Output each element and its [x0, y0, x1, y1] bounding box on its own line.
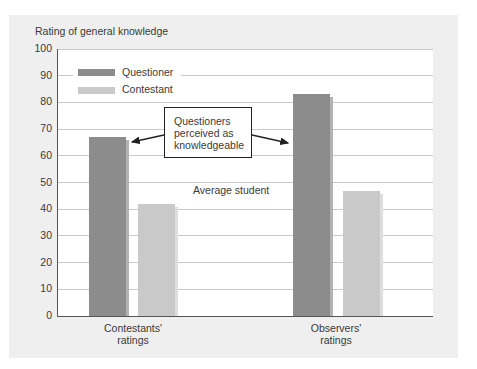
plot-area: Questioner Contestant Questioners percei… — [57, 49, 433, 317]
bar-questioner-contestants — [89, 137, 129, 316]
chart-title: Rating of general knowledge — [35, 25, 168, 37]
arrow-right-icon — [252, 135, 288, 143]
legend-swatch-questioner — [78, 69, 115, 76]
legend-label-contestant: Contestant — [122, 83, 173, 95]
bar-questioner-observers — [293, 94, 333, 316]
bar-contestant-observers — [343, 191, 383, 316]
y-tick-label-80: 80 — [18, 95, 52, 107]
legend-label-questioner: Questioner — [122, 66, 173, 78]
y-tick-label-100: 100 — [18, 42, 52, 54]
annotation-callout: Questioners perceived as knowledgeable — [164, 107, 252, 158]
gridline-80 — [58, 102, 433, 103]
y-tick-label-30: 30 — [18, 229, 52, 241]
y-tick-label-0: 0 — [18, 309, 52, 321]
legend-swatch-contestant — [78, 87, 115, 94]
gridline-100 — [58, 49, 433, 50]
y-tick-label-70: 70 — [18, 122, 52, 134]
annotation-text: Questioners perceived as knowledgeable — [174, 115, 244, 151]
bar-contestant-contestants — [138, 204, 178, 316]
legend: Questioner Contestant — [73, 57, 181, 99]
x-category-label-contestants: Contestants' ratings — [73, 322, 193, 346]
y-tick-label-10: 10 — [18, 282, 52, 294]
y-tick-label-40: 40 — [18, 202, 52, 214]
y-tick-label-60: 60 — [18, 149, 52, 161]
x-category-label-observers: Observers' ratings — [276, 322, 396, 346]
y-tick-label-20: 20 — [18, 256, 52, 268]
y-tick-label-50: 50 — [18, 176, 52, 188]
average-student-label: Average student — [193, 184, 269, 196]
arrow-left-icon — [132, 135, 164, 142]
y-tick-label-90: 90 — [18, 69, 52, 81]
